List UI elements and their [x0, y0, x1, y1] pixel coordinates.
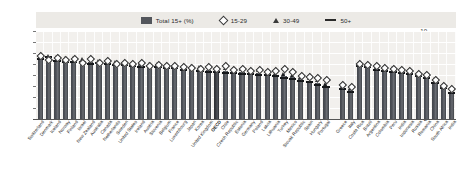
bar[interactable]	[147, 66, 152, 119]
bar-group[interactable]	[416, 31, 421, 119]
bar-group[interactable]	[432, 31, 437, 119]
bar-group[interactable]	[365, 31, 370, 119]
bar[interactable]	[155, 66, 160, 119]
bar-group[interactable]	[273, 31, 278, 119]
bar[interactable]	[348, 90, 353, 119]
bar[interactable]	[96, 63, 101, 119]
bar[interactable]	[441, 87, 446, 119]
bar[interactable]	[315, 83, 320, 119]
bar-group[interactable]	[105, 31, 110, 119]
bar-group[interactable]	[231, 31, 236, 119]
bar[interactable]	[223, 71, 228, 119]
bar[interactable]	[46, 59, 51, 120]
bar[interactable]	[407, 73, 412, 119]
bar-group[interactable]	[407, 31, 412, 119]
bar[interactable]	[130, 65, 135, 119]
bar-group[interactable]	[298, 31, 303, 119]
bar-group[interactable]	[265, 31, 270, 119]
bar-group[interactable]	[382, 31, 387, 119]
bar-group[interactable]	[189, 31, 194, 119]
bar-group[interactable]	[323, 31, 328, 119]
bar[interactable]	[382, 70, 387, 120]
bar-group[interactable]	[147, 31, 152, 119]
bar-group[interactable]	[122, 31, 127, 119]
bar-group[interactable]	[340, 31, 345, 119]
bar-group[interactable]	[390, 31, 395, 119]
bar-group[interactable]	[290, 31, 295, 119]
bar[interactable]	[357, 65, 362, 119]
bar[interactable]	[307, 81, 312, 120]
bar[interactable]	[38, 57, 43, 119]
bar[interactable]	[424, 77, 429, 119]
bar[interactable]	[290, 77, 295, 119]
bar-group[interactable]	[399, 31, 404, 119]
bar-group[interactable]	[46, 31, 51, 119]
bar-group[interactable]	[307, 31, 312, 119]
bar-group[interactable]	[54, 31, 59, 119]
bar[interactable]	[197, 70, 202, 120]
bar[interactable]	[80, 62, 85, 119]
bar[interactable]	[340, 88, 345, 119]
bar-group[interactable]	[155, 31, 160, 119]
bar[interactable]	[231, 72, 236, 119]
bar[interactable]	[449, 92, 454, 120]
bar-group[interactable]	[357, 31, 362, 119]
bar-group[interactable]	[449, 31, 454, 119]
bar-group[interactable]	[206, 31, 211, 119]
bar-group[interactable]	[130, 31, 135, 119]
bar[interactable]	[298, 79, 303, 119]
bar[interactable]	[281, 76, 286, 119]
bar-group[interactable]	[256, 31, 261, 119]
bar[interactable]	[88, 62, 93, 119]
bar-group[interactable]	[315, 31, 320, 119]
bar-group[interactable]	[80, 31, 85, 119]
bar[interactable]	[138, 65, 143, 119]
bar-group[interactable]	[96, 31, 101, 119]
bar-group[interactable]	[374, 31, 379, 119]
bar-group[interactable]	[223, 31, 228, 119]
bar[interactable]	[181, 68, 186, 119]
bar-group[interactable]	[38, 31, 43, 119]
bar-group[interactable]	[63, 31, 68, 119]
bar-group[interactable]	[248, 31, 253, 119]
vertical-gridline	[68, 31, 69, 119]
bar-group[interactable]	[424, 31, 429, 119]
bar[interactable]	[239, 72, 244, 119]
bar[interactable]	[432, 82, 437, 119]
bar-group[interactable]	[441, 31, 446, 119]
bar-group[interactable]	[239, 31, 244, 119]
bar-group[interactable]	[71, 31, 76, 119]
marker-50plus	[314, 84, 321, 86]
bar[interactable]	[416, 75, 421, 119]
bar-group[interactable]	[214, 31, 219, 119]
bar[interactable]	[105, 63, 110, 119]
bar[interactable]	[273, 75, 278, 119]
bar-group[interactable]	[172, 31, 177, 119]
bar[interactable]	[374, 68, 379, 119]
bar[interactable]	[63, 61, 68, 119]
bar[interactable]	[164, 67, 169, 119]
bar[interactable]	[71, 61, 76, 119]
bar[interactable]	[248, 73, 253, 119]
bar[interactable]	[256, 73, 261, 119]
bar-group[interactable]	[181, 31, 186, 119]
bar[interactable]	[323, 86, 328, 119]
bar[interactable]	[390, 71, 395, 119]
bar[interactable]	[189, 68, 194, 119]
bar-group[interactable]	[164, 31, 169, 119]
bar[interactable]	[214, 71, 219, 119]
bar-group[interactable]	[88, 31, 93, 119]
bar[interactable]	[54, 60, 59, 119]
bar-group[interactable]	[113, 31, 118, 119]
bar[interactable]	[365, 66, 370, 119]
bar-group[interactable]	[197, 31, 202, 119]
bar-group[interactable]	[138, 31, 143, 119]
bar[interactable]	[122, 64, 127, 119]
bar-group[interactable]	[348, 31, 353, 119]
bar[interactable]	[206, 70, 211, 120]
bar[interactable]	[399, 72, 404, 119]
bar[interactable]	[172, 67, 177, 119]
bar[interactable]	[113, 64, 118, 119]
bar[interactable]	[265, 74, 270, 119]
bar-group[interactable]	[281, 31, 286, 119]
